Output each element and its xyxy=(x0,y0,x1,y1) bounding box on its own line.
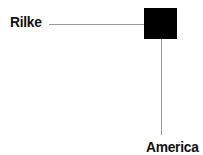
node-label-america: America xyxy=(146,139,199,154)
connector-line-vertical xyxy=(161,39,162,135)
node-label-rilke: Rilke xyxy=(10,14,42,29)
connector-line-horizontal xyxy=(49,24,144,25)
center-square-marker xyxy=(144,8,177,39)
